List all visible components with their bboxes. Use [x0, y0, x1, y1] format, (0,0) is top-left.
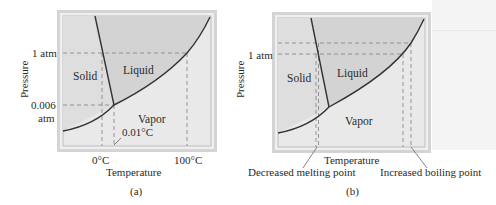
panel-b-vapor-label: Vapor [345, 116, 372, 128]
panel-b-xlabel: Temperature [324, 155, 379, 166]
panel-a-xtick-0c: 0°C [92, 155, 109, 166]
increased-boiling-point-label: Increased boiling point [380, 167, 481, 178]
panel-a-ytick-0006: 0.006 [31, 100, 56, 111]
panel-a-liquid-label: Liquid [123, 65, 154, 77]
panel-b-caption: (b) [346, 186, 359, 197]
decreased-melting-point-label: Decreased melting point [248, 167, 356, 178]
panel-a-ylabel: Pressure [18, 61, 30, 98]
triple-point-label: 0.01°C [122, 127, 153, 138]
panel-b-plot [272, 12, 431, 168]
panel-a-xlabel: Temperature [106, 167, 161, 178]
panel-a-caption: (a) [130, 186, 142, 197]
panel-a-vapor-label: Vapor [138, 114, 165, 126]
panel-a-xtick-100c: 100°C [174, 155, 202, 166]
panel-b-liquid-label: Liquid [337, 68, 368, 80]
panel-b-ytick-1atm: 1 atm [248, 50, 273, 61]
panel-b-ylabel: Pressure [234, 61, 246, 98]
panel-a-solid-label: Solid [73, 71, 97, 83]
panel-b-solid-label: Solid [287, 73, 311, 85]
panel-a-ytick-atm: atm [38, 113, 55, 124]
panel-a-ytick-1atm: 1 atm [32, 48, 57, 59]
